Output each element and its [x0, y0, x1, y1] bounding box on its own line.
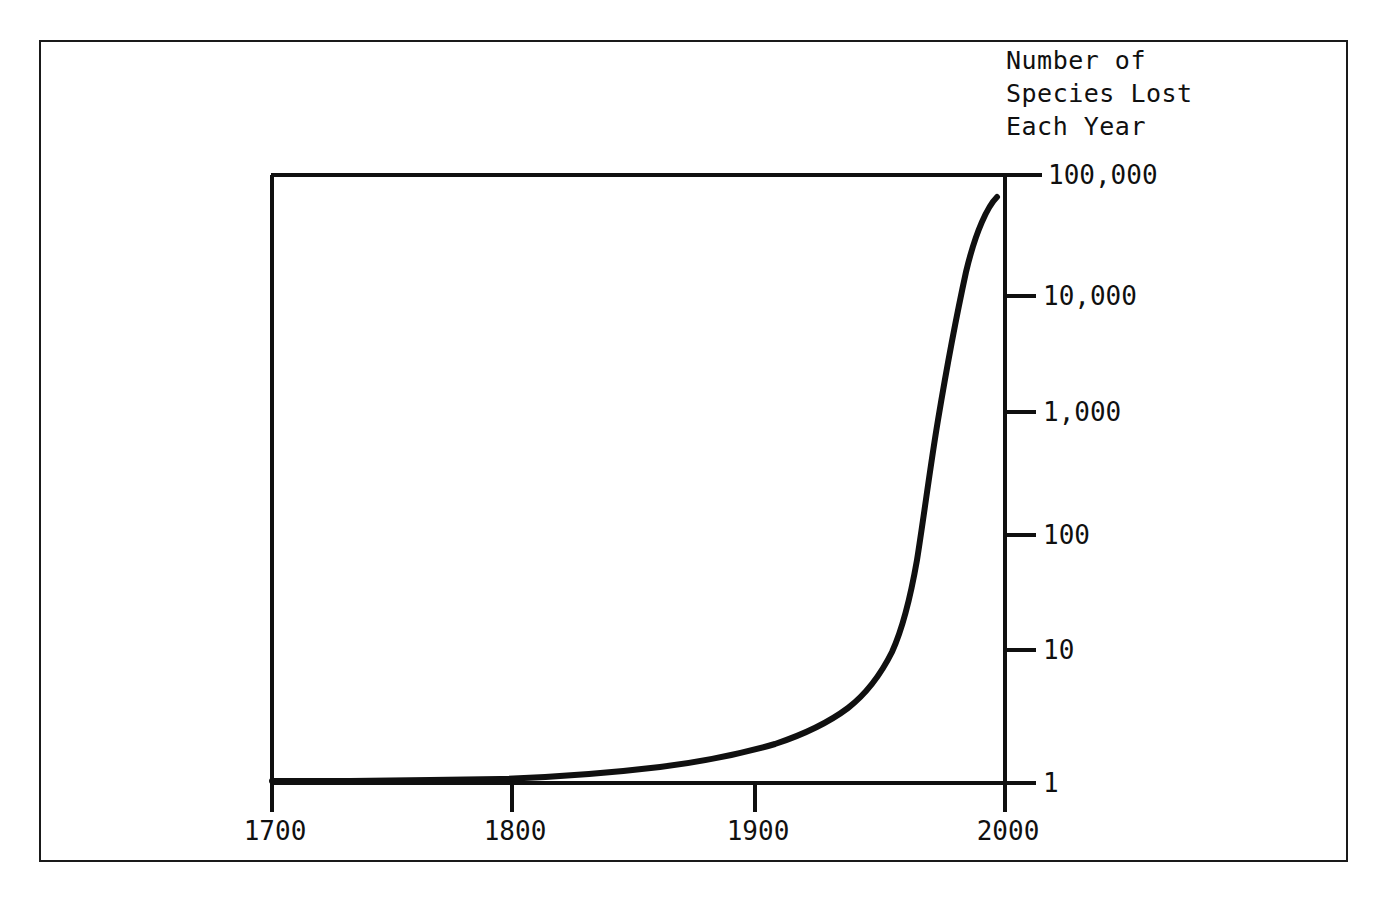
- x-tick-label-1900: 1900: [727, 818, 790, 844]
- axis-title-line-1: Number of: [1006, 46, 1146, 75]
- axis-title-line-2: Species Lost: [1006, 79, 1193, 108]
- y-tick-label-1000: 1,000: [1043, 399, 1121, 425]
- y-tick-label-1: 1: [1043, 770, 1059, 796]
- figure-canvas: Number ofSpecies LostEach Year 100,000 1…: [0, 0, 1378, 900]
- y-tick-label-100000: 100,000: [1048, 162, 1158, 188]
- x-tick-label-1800: 1800: [484, 818, 547, 844]
- chart-axis-title: Number ofSpecies LostEach Year: [1006, 44, 1246, 143]
- axis-title-line-3: Each Year: [1006, 112, 1146, 141]
- y-tick-label-10: 10: [1043, 637, 1074, 663]
- x-tick-label-1700: 1700: [244, 818, 307, 844]
- y-tick-label-100: 100: [1043, 522, 1090, 548]
- x-tick-label-2000: 2000: [977, 818, 1040, 844]
- y-tick-label-10000: 10,000: [1043, 283, 1137, 309]
